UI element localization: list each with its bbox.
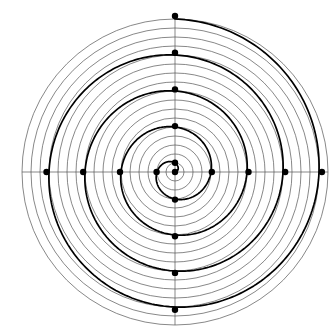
marker-dot-m14 xyxy=(172,50,178,56)
marker-dot-m12 xyxy=(172,270,178,276)
polar-plot-canvas xyxy=(0,0,333,336)
marker-dot-m13 xyxy=(282,169,288,175)
marker-dot-m7 xyxy=(117,169,123,175)
marker-dot-m4 xyxy=(172,196,178,202)
marker-dot-m8 xyxy=(172,233,178,239)
marker-dot-m15 xyxy=(43,169,49,175)
marker-dot-m1 xyxy=(172,169,178,175)
marker-dot-m2 xyxy=(172,160,178,166)
polar-spiral-figure xyxy=(0,0,333,336)
marker-dot-m11 xyxy=(80,169,86,175)
marker-dot-m6 xyxy=(172,123,178,129)
marker-dot-m18 xyxy=(172,13,178,19)
marker-dot-m5 xyxy=(209,169,215,175)
marker-dot-m9 xyxy=(245,169,251,175)
marker-dot-m3 xyxy=(153,169,159,175)
marker-dot-m10 xyxy=(172,86,178,92)
marker-dot-m16 xyxy=(172,307,178,313)
marker-dot-m17 xyxy=(319,169,325,175)
